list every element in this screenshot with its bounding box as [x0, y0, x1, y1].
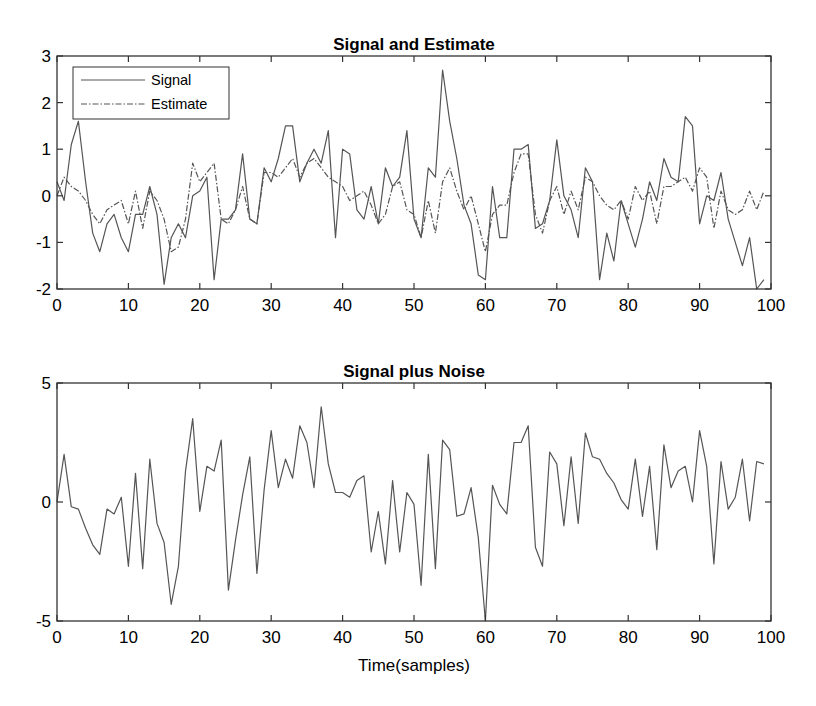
- x-tick-label: 100: [757, 296, 785, 315]
- x-tick-label: 60: [476, 628, 495, 647]
- y-tick-label: 2: [42, 94, 51, 113]
- x-tick-label: 40: [333, 628, 352, 647]
- chart-title: Signal plus Noise: [343, 362, 485, 381]
- legend-label-signal: Signal: [151, 72, 191, 88]
- y-tick-label: 0: [42, 187, 51, 206]
- x-tick-label: 0: [52, 628, 61, 647]
- x-tick-label: 0: [52, 296, 61, 315]
- x-tick-label: 10: [119, 628, 138, 647]
- x-tick-label: 100: [757, 628, 785, 647]
- x-tick-label: 20: [190, 296, 209, 315]
- series-line-signal-plus-noise: [57, 407, 764, 621]
- x-tick-label: 40: [333, 296, 352, 315]
- x-tick-label: 50: [405, 296, 424, 315]
- x-axis-label: Time(samples): [358, 656, 470, 675]
- y-tick-label: 1: [42, 140, 51, 159]
- axis-ticks: 0102030405060708090100-505: [36, 374, 785, 647]
- x-tick-label: 90: [690, 628, 709, 647]
- legend: Signal Estimate: [73, 67, 229, 119]
- x-tick-label: 10: [119, 296, 138, 315]
- plot-area: [57, 407, 764, 621]
- x-tick-label: 80: [619, 628, 638, 647]
- figure: Signal and Estimate 01020304050607080901…: [0, 0, 816, 706]
- y-tick-label: 5: [42, 374, 51, 393]
- x-tick-label: 80: [619, 296, 638, 315]
- x-tick-label: 70: [547, 296, 566, 315]
- y-tick-label: -1: [36, 233, 51, 252]
- signal-and-estimate-axes: Signal and Estimate 01020304050607080901…: [36, 35, 785, 315]
- y-tick-label: -5: [36, 612, 51, 631]
- x-tick-label: 90: [690, 296, 709, 315]
- x-tick-label: 20: [190, 628, 209, 647]
- x-tick-label: 50: [405, 628, 424, 647]
- x-tick-label: 30: [262, 296, 281, 315]
- chart-title: Signal and Estimate: [333, 35, 495, 54]
- axes-box: [57, 383, 771, 621]
- x-tick-label: 70: [547, 628, 566, 647]
- signal-plus-noise-axes: Signal plus Noise 0102030405060708090100…: [36, 362, 785, 675]
- legend-label-estimate: Estimate: [151, 96, 207, 112]
- x-tick-label: 30: [262, 628, 281, 647]
- y-tick-label: 0: [42, 493, 51, 512]
- y-tick-label: -2: [36, 280, 51, 299]
- x-tick-label: 60: [476, 296, 495, 315]
- y-tick-label: 3: [42, 47, 51, 66]
